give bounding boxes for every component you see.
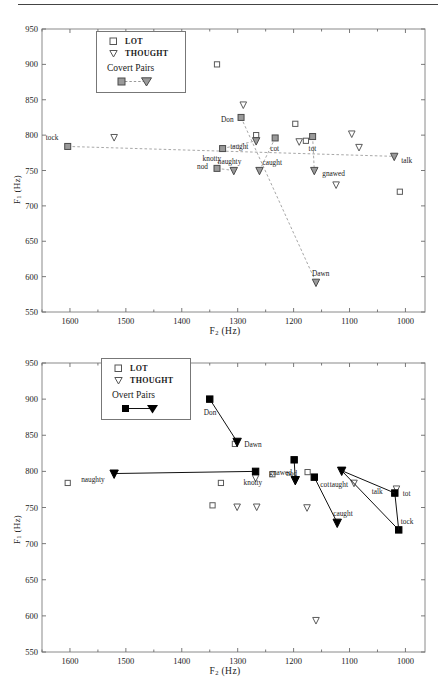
y-axis-tick-label: 900 xyxy=(10,59,38,69)
covert-plot-svg xyxy=(0,14,443,340)
x-axis-tick-label: 1300 xyxy=(218,656,258,666)
data-point-label: gnawed xyxy=(269,468,292,477)
y-axis-tick-label: 900 xyxy=(10,394,38,404)
data-point-label: Don xyxy=(204,408,217,417)
data-point-label: talk xyxy=(401,156,412,165)
y-axis-tick-label: 950 xyxy=(10,358,38,368)
data-point-label: taught xyxy=(330,480,348,489)
covert-legend-glyphs xyxy=(97,32,187,94)
data-point-label: tock xyxy=(401,517,414,526)
overt-plot-svg xyxy=(0,348,443,687)
data-point-label: cot xyxy=(270,144,279,153)
y-axis-tick-label: 800 xyxy=(10,466,38,476)
data-point-label: tock xyxy=(46,133,59,142)
y-axis-tick-label: 850 xyxy=(10,95,38,105)
data-point-label: tot xyxy=(309,144,317,153)
x-axis-tick-label: 1000 xyxy=(385,316,425,326)
x-axis-tick-label: 1200 xyxy=(274,656,314,666)
y-axis-tick-label: 850 xyxy=(10,430,38,440)
data-point-label: naughty xyxy=(218,157,242,166)
x-axis-tick-label: 1500 xyxy=(106,316,146,326)
x-axis-tick-label: 1400 xyxy=(162,316,202,326)
x-axis-tick-label: 1100 xyxy=(330,656,370,666)
x-axis-tick-label: 1000 xyxy=(385,656,425,666)
x-axis-tick-label: 1100 xyxy=(330,316,370,326)
x-axis-tick-label: 1300 xyxy=(218,316,258,326)
y-axis-tick-label: 650 xyxy=(10,236,38,246)
y-axis-tick-label: 600 xyxy=(10,611,38,621)
x-axis-tick-label: 1400 xyxy=(162,656,202,666)
y-axis-tick-label: 550 xyxy=(10,307,38,317)
data-point-label: cot xyxy=(320,480,329,489)
covert-legend: LOT THOUGHT Covert Pairs xyxy=(96,31,186,93)
data-point-label: knotty xyxy=(244,478,263,487)
covert-y-axis-title: F1 (Hz) xyxy=(12,175,22,204)
overt-legend: LOT THOUGHT Overt Pairs xyxy=(101,358,191,420)
data-point-label: caught xyxy=(333,509,352,518)
y-axis-tick-label: 650 xyxy=(10,575,38,585)
figure-root: F1 (Hz) F2 (Hz) LOT THOUGHT Covert Pairs… xyxy=(0,0,443,687)
data-point-label: tot xyxy=(403,489,411,498)
overt-x-axis-title: F2 (Hz) xyxy=(180,666,270,676)
data-point-label: Dawn xyxy=(244,440,261,449)
data-point-label: nod xyxy=(197,162,208,171)
y-axis-tick-label: 750 xyxy=(10,503,38,513)
y-axis-tick-label: 950 xyxy=(10,24,38,34)
x-axis-tick-label: 1200 xyxy=(274,316,314,326)
y-axis-tick-label: 800 xyxy=(10,130,38,140)
data-point-label: Don xyxy=(221,115,234,124)
y-axis-tick-label: 700 xyxy=(10,201,38,211)
data-point-label: naughty xyxy=(81,475,105,484)
y-axis-tick-label: 700 xyxy=(10,539,38,549)
overt-legend-glyphs xyxy=(102,359,192,421)
overt-pairs-chart: F1 (Hz) F2 (Hz) LOT THOUGHT Overt Pairs … xyxy=(0,348,443,687)
x-axis-tick-label: 1600 xyxy=(50,316,90,326)
data-point-label: gnawed xyxy=(322,169,345,178)
data-point-label: Dawn xyxy=(312,269,329,278)
data-point-label: caught xyxy=(262,158,281,167)
data-point-label: taught xyxy=(230,142,248,151)
y-axis-tick-label: 750 xyxy=(10,166,38,176)
top-rule xyxy=(18,4,438,5)
y-axis-tick-label: 600 xyxy=(10,272,38,282)
data-point-label: knotty xyxy=(203,154,222,163)
covert-pairs-chart: F1 (Hz) F2 (Hz) LOT THOUGHT Covert Pairs… xyxy=(0,14,443,340)
data-point-label: talk xyxy=(372,487,383,496)
x-axis-tick-label: 1500 xyxy=(106,656,146,666)
x-axis-tick-label: 1600 xyxy=(50,656,90,666)
y-axis-tick-label: 550 xyxy=(10,647,38,657)
covert-x-axis-title: F2 (Hz) xyxy=(180,326,270,336)
